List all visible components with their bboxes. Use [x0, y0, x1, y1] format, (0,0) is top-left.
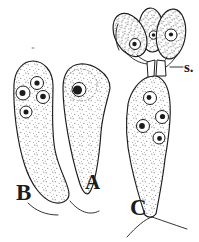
hypha-line — [70, 201, 99, 213]
nucleus — [156, 111, 169, 124]
nucleus — [37, 91, 50, 104]
nucleus — [137, 120, 150, 133]
hypha-line — [127, 217, 152, 237]
nucleus — [144, 92, 157, 105]
label-a: A — [85, 170, 101, 194]
sterigma — [156, 60, 166, 76]
label-s: s. — [184, 59, 194, 75]
label-b: B — [16, 180, 31, 205]
nucleus — [20, 106, 32, 118]
spore-cluster — [106, 7, 188, 77]
sterigmata — [147, 60, 166, 77]
hypha-line — [152, 217, 187, 229]
figure-canvas: B A C s. — [0, 0, 199, 242]
botanical-illustration: B A C s. — [0, 0, 199, 242]
nucleus — [130, 39, 141, 50]
nucleus — [165, 29, 177, 41]
nucleus — [31, 77, 44, 90]
nucleus — [16, 86, 30, 100]
ink-speck — [31, 47, 34, 49]
nucleus — [153, 132, 165, 144]
sterigma — [147, 60, 155, 77]
label-c: C — [130, 195, 147, 220]
nucleus — [72, 83, 86, 97]
hypha-line — [28, 203, 58, 215]
